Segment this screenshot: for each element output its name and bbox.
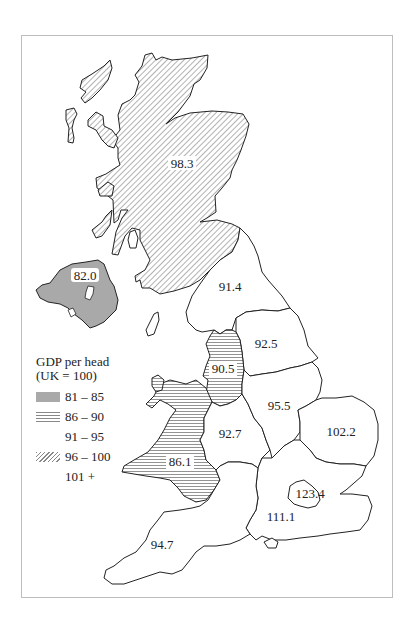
legend-subtitle: (UK = 100): [36, 369, 146, 383]
gray-fill-swatch: [36, 392, 60, 402]
diagonal-lines-swatch: [36, 452, 60, 462]
label-north-west: 90.5: [209, 361, 237, 376]
svg-text:86.1: 86.1: [169, 454, 192, 469]
label-south-west: 94.7: [151, 537, 174, 552]
legend-item-96-100: 96 – 100: [36, 449, 146, 469]
horizontal-lines-swatch: [36, 412, 60, 422]
legend-title: GDP per head: [36, 355, 146, 369]
label-greater-london: 123.4: [295, 486, 325, 501]
legend-item-86-90: 86 – 90: [36, 409, 146, 429]
svg-text:90.5: 90.5: [212, 361, 235, 376]
blank-swatch: [36, 432, 60, 442]
none-swatch: [36, 472, 60, 482]
label-west-midlands: 92.7: [219, 426, 242, 441]
label-yorkshire: 92.5: [255, 336, 278, 351]
region-scotland: [66, 53, 249, 294]
anglesey: [152, 375, 164, 392]
legend-item-101-plus: 101 +: [36, 469, 146, 489]
svg-text:98.3: 98.3: [171, 156, 194, 171]
label-wales: 86.1: [166, 454, 194, 469]
svg-text:82.0: 82.0: [74, 268, 97, 283]
label-south-east: 111.1: [267, 509, 295, 524]
uk-gdp-map: 98.3 82.0 91.4 92.5 90.5 95.5 92.7 102.2…: [0, 0, 414, 627]
legend: GDP per head (UK = 100) 81 – 85 86 – 90 …: [36, 355, 146, 489]
legend-item-81-85: 81 – 85: [36, 389, 146, 409]
label-east-anglia: 102.2: [326, 424, 355, 439]
label-northern-ireland: 82.0: [71, 268, 99, 283]
legend-item-91-95: 91 – 95: [36, 429, 146, 449]
label-scotland: 98.3: [168, 156, 196, 171]
label-north: 91.4: [219, 279, 242, 294]
isle-of-man: [146, 312, 159, 336]
label-east-midlands: 95.5: [268, 398, 291, 413]
